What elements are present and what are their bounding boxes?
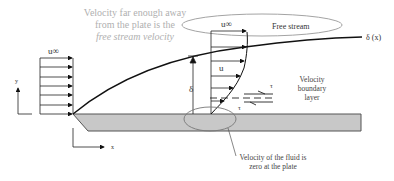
velocity-boundary-layer-line3: layer <box>292 93 332 102</box>
tau-upper-label: τ <box>270 82 273 90</box>
free-stream-note: Velocity far enough away from the plate … <box>70 7 200 43</box>
velocity-boundary-layer-label: Velocity boundary layer <box>292 75 332 102</box>
y-axis <box>18 88 32 114</box>
no-slip-pointer-line <box>228 128 236 156</box>
boundary-thickness-label: δ (x) <box>366 33 381 42</box>
velocity-boundary-layer-line1: Velocity <box>292 75 332 84</box>
flat-plate <box>73 114 361 131</box>
no-slip-note: Velocity of the fluid is zero at the pla… <box>232 153 314 171</box>
free-stream-note-line2: from the plate is the <box>70 19 200 31</box>
free-stream-label: Free stream <box>272 22 310 31</box>
inlet-velocity-profile <box>40 58 73 114</box>
boundary-layer-velocity-profile <box>211 31 247 114</box>
tau-lower-label: τ <box>238 104 241 112</box>
free-stream-note-line1: Velocity far enough away <box>70 7 200 19</box>
velocity-boundary-layer-line2: boundary <box>292 84 332 93</box>
no-slip-note-line1: Velocity of the fluid is <box>232 153 314 162</box>
u-local-label: u <box>219 63 224 73</box>
u-infinity-inlet-label: u∞ <box>48 46 59 56</box>
x-axis-label: x <box>111 144 114 150</box>
no-slip-note-line2: zero at the plate <box>232 162 314 171</box>
delta-label: δ <box>189 84 193 94</box>
free-stream-ellipse <box>182 14 342 36</box>
shear-stress-arrows <box>210 91 275 105</box>
u-infinity-profile-label: u∞ <box>221 19 232 29</box>
free-stream-note-line3: free stream velocity <box>70 31 200 43</box>
y-axis-label: y <box>15 78 18 84</box>
